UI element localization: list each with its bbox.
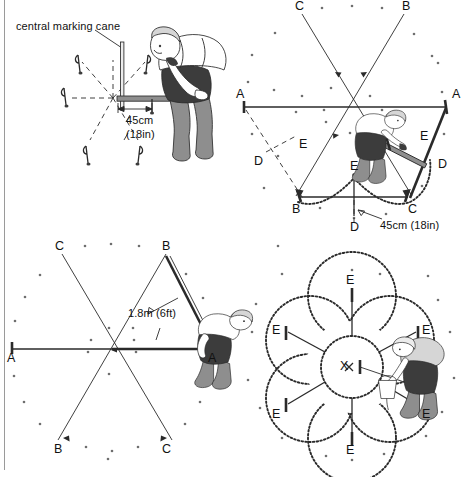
p4-label-E-upper-right: E [422,324,430,337]
panel-1-dimension-imperial: (18in) [126,129,155,140]
p4-label-E-top: E [346,274,354,287]
p4-label-X-centre: X [340,360,348,373]
p2-label-D-right: D [438,158,447,171]
p3-label-C-bottom: C [162,443,171,456]
p2-dimension-text: 45cm (18in) [380,220,439,231]
p2-label-A-right: A [452,88,460,101]
panel-top-right-artwork [234,0,472,236]
panel-1-caption: central marking cane [16,21,120,32]
gardener-figure-2 [352,110,406,183]
p3-dimension-text: 1.8m (6ft) [128,308,176,319]
p2-label-A-left: A [236,88,244,101]
panel-bottom-left: C B A A B C 1.8m (6ft) [0,232,236,477]
panel-top-left-artwork [0,0,236,230]
p2-label-D-left: D [254,155,263,168]
p4-label-E-upper-left: E [272,324,280,337]
panel-bottom-right: E E E E E E X [234,232,472,477]
panel-top-left: central marking cane 45cm (18in) [0,0,236,230]
p3-label-A-left: A [7,352,15,365]
left-dashed-D-E [266,136,296,152]
p4-label-E-bottom: E [346,444,354,457]
p2-label-E-left: E [299,138,307,151]
panel-top-right: C B A A E D E D B C E D 45cm (18in) [234,0,472,236]
p2-label-E-right: E [420,130,428,143]
p3-label-C-top: C [55,240,64,253]
p2-label-C-bottom: C [408,203,417,216]
outer-canes [61,55,150,166]
gardener-figure-1 [150,27,226,161]
panel-bottom-left-artwork [0,232,236,477]
panel-1-dimension-metric: 45cm [126,115,153,126]
line-B-B [58,254,166,440]
p3-label-A-right: A [208,352,216,365]
p4-label-E-lower-right: E [422,408,430,421]
background-texture-dots [13,243,212,461]
p2-label-B-top: B [402,0,410,13]
p4-label-E-lower-left: E [272,408,280,421]
p3-label-B-bottom: B [54,443,62,456]
p2-label-E-apex: E [350,160,358,173]
line-C-C [62,254,172,440]
line-A-C-taut [410,108,446,198]
scribed-arc-right [410,160,430,202]
p2-label-C-top: C [295,0,304,13]
p2-label-B-bottom: B [292,203,300,216]
diagram-sheet: central marking cane 45cm (18in) [0,0,472,477]
p3-label-B-top: B [162,240,170,253]
panel-bottom-right-artwork [234,232,472,477]
